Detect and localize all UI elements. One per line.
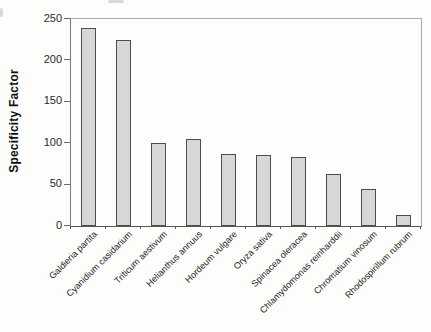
x-category-label: Chromatium vinosum [311, 229, 378, 296]
x-category-label: Cyanidium casidarium [64, 229, 134, 299]
y-tick-label: 150 [22, 94, 62, 107]
bar-galdieria-partita [81, 28, 96, 226]
x-tick-mark [175, 226, 176, 229]
x-tick-mark [210, 226, 211, 229]
scan-artifact [0, 8, 3, 17]
bar-helianthus-annuus [186, 139, 201, 226]
y-tick-label: 200 [22, 53, 62, 66]
y-tick-label: 250 [22, 12, 62, 25]
x-tick-mark [350, 226, 351, 229]
x-category-label: Rhodospirillum rubrum [342, 229, 413, 300]
x-tick-mark [280, 226, 281, 229]
y-tick-mark [64, 184, 70, 185]
scan-artifact [108, 0, 124, 3]
y-tick-mark [64, 142, 70, 143]
x-tick-mark [70, 226, 71, 229]
bar-oryza-sativa [256, 155, 271, 226]
y-tick-label: 0 [22, 219, 62, 232]
x-tick-mark [385, 226, 386, 229]
y-tick-mark [64, 18, 70, 19]
bar-triticum-aestivum [151, 143, 166, 226]
bar-hordeum-vulgare [221, 154, 236, 226]
bar-chlamydomonas-reinharddii [326, 174, 341, 226]
x-tick-mark [315, 226, 316, 229]
y-tick-mark [64, 101, 70, 102]
x-tick-mark [420, 226, 421, 229]
y-tick-mark [64, 59, 70, 60]
y-tick-label: 50 [22, 177, 62, 190]
plot-area [70, 18, 422, 227]
bar-rhodospirillum-rubrum [396, 215, 411, 226]
bar-cyanidium-casidarium [116, 40, 131, 226]
x-tick-mark [105, 226, 106, 229]
bar-spinacea-oleracea [291, 157, 306, 226]
x-tick-mark [140, 226, 141, 229]
x-tick-mark [245, 226, 246, 229]
y-tick-label: 100 [22, 136, 62, 149]
bar-chromatium-vinosum [361, 189, 376, 226]
bar-chart-figure: Specificity Factor 050100150200250 Galdi… [0, 0, 431, 332]
y-axis-title: Specificity Factor [7, 69, 21, 173]
